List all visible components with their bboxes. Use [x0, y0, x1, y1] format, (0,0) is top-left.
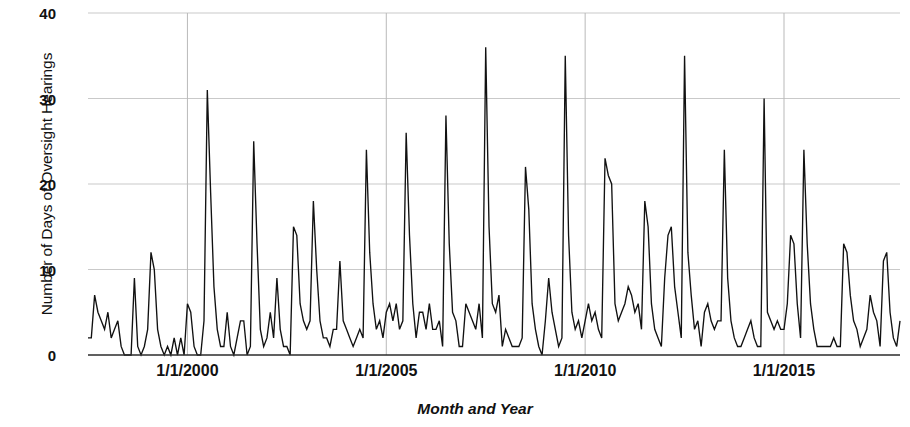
x-tick-label-1-1-2010: 1/1/2010 — [554, 362, 616, 380]
chart-container: Number of Days of Oversight Hearings 010… — [0, 0, 910, 427]
horizontal-gridlines — [88, 13, 900, 270]
x-tick-label-1-1-2000: 1/1/2000 — [156, 362, 218, 380]
x-tick-label-1-1-2015: 1/1/2015 — [753, 362, 815, 380]
x-tick-label-1-1-2005: 1/1/2005 — [355, 362, 417, 380]
x-axis-title: Month and Year — [0, 400, 910, 418]
x-axis-title-text: Month and Year — [417, 400, 532, 418]
data-series-line — [88, 47, 900, 355]
